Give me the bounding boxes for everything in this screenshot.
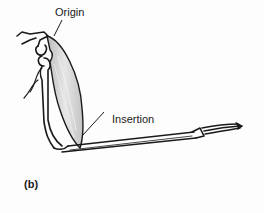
hand-bones: [202, 123, 242, 134]
arm-illustration: [0, 0, 264, 213]
insertion-leader-line: [82, 112, 104, 136]
diagram-canvas: Origin Insertion (b): [0, 0, 264, 213]
origin-leader-line: [54, 20, 62, 36]
ligament-lines: [24, 68, 42, 98]
insertion-label: Insertion: [112, 113, 154, 125]
origin-label: Origin: [55, 6, 84, 18]
shoulder-bone: [17, 32, 48, 66]
figure-label: (b): [24, 178, 38, 190]
biceps-muscle: [47, 36, 83, 148]
